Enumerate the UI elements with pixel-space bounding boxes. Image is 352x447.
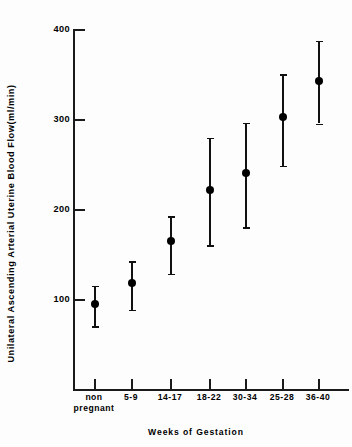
error-bar-cap-upper (243, 123, 250, 125)
data-point-marker (242, 169, 250, 177)
data-point-marker (315, 77, 323, 85)
error-bar-cap-lower (129, 310, 136, 312)
x-axis-title: Weeks of Gestation (40, 427, 352, 437)
error-bar-cap-lower (207, 245, 214, 247)
chart-figure: Unilateral Ascending Arterial Uterine Bl… (0, 0, 352, 447)
x-tick-4 (245, 379, 247, 390)
x-tick-2 (170, 379, 172, 390)
error-bar-cap-upper (207, 138, 214, 140)
data-point-marker (91, 300, 99, 308)
x-tick-6 (318, 379, 320, 390)
error-bar-cap-upper (92, 286, 99, 288)
y-tick-400 (75, 29, 85, 31)
x-tick-5 (282, 379, 284, 390)
error-bar-cap-upper (129, 261, 136, 263)
y-tick-300 (75, 119, 85, 121)
y-tick-200 (75, 209, 85, 211)
y-axis-title: Unilateral Ascending Arterial Uterine Bl… (0, 0, 22, 447)
x-tick-0 (94, 379, 96, 390)
data-point-marker (167, 237, 175, 245)
x-tick-label-0-line2: pregnant (59, 403, 129, 413)
y-tick-label-100: 100 (36, 294, 70, 304)
data-point-marker (279, 113, 287, 121)
error-bar-cap-upper (168, 216, 175, 218)
error-bar-cap-lower (168, 274, 175, 276)
x-tick-3 (209, 379, 211, 390)
x-tick-1 (131, 379, 133, 390)
error-bar-cap-lower (92, 326, 99, 328)
y-tick-label-400: 400 (36, 24, 70, 34)
error-bar-cap-lower (280, 166, 287, 168)
error-bar-cap-upper (280, 74, 287, 76)
y-tick-label-200: 200 (36, 204, 70, 214)
error-bar-cap-upper (316, 41, 323, 43)
data-point-marker (128, 279, 136, 287)
y-tick-label-300: 300 (36, 114, 70, 124)
x-tick-label-6: 36-40 (288, 392, 348, 402)
error-bar-cap-lower (316, 124, 323, 126)
x-axis-line (73, 389, 349, 391)
error-bar-stem (170, 216, 172, 274)
y-tick-100 (75, 299, 85, 301)
error-bar-cap-lower (243, 227, 250, 229)
data-point-marker (206, 186, 214, 194)
